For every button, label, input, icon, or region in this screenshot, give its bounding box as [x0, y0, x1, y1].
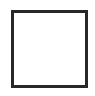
square-interior: [14, 13, 85, 85]
empty-square-outline[interactable]: [11, 10, 88, 88]
square-interior-text: [14, 13, 15, 14]
canvas-root: [0, 0, 95, 96]
